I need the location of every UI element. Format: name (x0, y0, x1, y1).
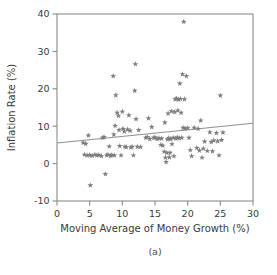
data-point-star (182, 96, 188, 102)
plot-frame (57, 14, 253, 201)
data-point-star (214, 130, 220, 136)
data-point-star (186, 135, 192, 141)
data-point-star (87, 182, 93, 188)
y-tick-label: 10 (37, 121, 49, 132)
chart-canvas: -10010203040051015202530Moving Average o… (0, 0, 277, 275)
x-tick-label: 10 (116, 208, 128, 219)
data-point-star (146, 115, 152, 121)
y-tick-label: 40 (37, 8, 49, 19)
data-point-star (181, 19, 187, 25)
y-tick-label: 20 (37, 83, 49, 94)
data-point-star (169, 141, 175, 147)
data-point-star (110, 73, 116, 79)
data-point-star (219, 137, 225, 143)
data-point-star (187, 147, 193, 153)
x-tick-label: 25 (214, 208, 226, 219)
x-tick-label: 5 (87, 208, 93, 219)
data-point-star (207, 129, 213, 135)
x-axis-title: Moving Average of Money Growth (%) (60, 223, 249, 234)
x-axis: 051015202530 (54, 201, 259, 219)
data-point-star (149, 124, 155, 130)
y-axis-title: Inflation Rate (%) (6, 64, 17, 152)
data-point-star (102, 171, 108, 177)
data-point-star (217, 92, 223, 98)
data-point-star (114, 110, 120, 116)
data-point-star (132, 88, 138, 94)
data-point-star (177, 81, 183, 87)
y-tick-label: 0 (43, 158, 49, 169)
data-point-star (215, 138, 221, 144)
data-point-star (136, 127, 142, 133)
data-point-star (133, 61, 139, 67)
data-point-star (171, 153, 177, 159)
y-axis: -10010203040 (34, 8, 57, 206)
x-tick-label: 20 (182, 208, 194, 219)
data-point-star (159, 135, 165, 141)
data-point-star (85, 133, 91, 139)
data-point-star (163, 159, 169, 165)
data-point-star (126, 112, 132, 118)
data-point-star (119, 109, 125, 115)
data-point-star (112, 152, 118, 158)
x-tick-label: 0 (54, 208, 60, 219)
data-point-star (133, 116, 139, 122)
data-point-star (106, 143, 112, 149)
data-point-star (204, 148, 210, 154)
data-point-star (189, 153, 195, 159)
data-points (80, 19, 226, 188)
data-point-star (163, 155, 169, 161)
data-point-star (199, 155, 205, 161)
data-point-star (198, 118, 204, 124)
data-point-star (202, 138, 208, 144)
data-point-star (131, 152, 137, 158)
y-tick-label: 30 (37, 46, 49, 57)
y-tick-label: -10 (34, 195, 50, 206)
data-point-star (216, 152, 222, 158)
x-tick-label: 15 (149, 208, 161, 219)
data-point-star (111, 131, 117, 137)
scatter-plot-figure: -10010203040051015202530Moving Average o… (0, 0, 277, 275)
data-point-star (195, 126, 201, 132)
data-point-star (116, 127, 122, 133)
data-point-star (162, 119, 168, 125)
data-point-star (220, 130, 226, 136)
data-point-star (112, 123, 118, 129)
figure-caption: (a) (148, 246, 161, 257)
data-point-star (166, 154, 172, 160)
data-point-star (118, 152, 124, 158)
data-point-star (210, 148, 216, 154)
data-point-star (117, 143, 123, 149)
data-point-star (113, 92, 119, 98)
x-tick-label: 30 (247, 208, 259, 219)
